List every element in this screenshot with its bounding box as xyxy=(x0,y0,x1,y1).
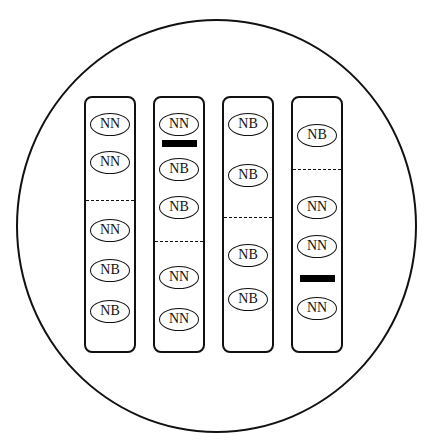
dashed-divider xyxy=(224,217,272,218)
marker-oval-nn: NN xyxy=(159,266,199,289)
marker-oval-nn: NN xyxy=(90,219,130,242)
marker-oval-nb: NB xyxy=(228,288,268,311)
marker-oval-nn: NN xyxy=(159,113,199,136)
dashed-divider xyxy=(155,241,203,242)
marker-oval-nn: NN xyxy=(90,113,130,136)
marker-oval-nb: NB xyxy=(228,244,268,267)
dashed-divider xyxy=(86,200,134,201)
black-bar-marker xyxy=(162,140,197,147)
lane-4: NBNNNNNN xyxy=(291,96,343,353)
marker-oval-nb: NB xyxy=(90,300,130,323)
marker-oval-nn: NN xyxy=(297,235,337,258)
marker-oval-nb: NB xyxy=(159,158,199,181)
marker-oval-nn: NN xyxy=(159,308,199,331)
marker-oval-nb: NB xyxy=(297,124,337,147)
marker-oval-nb: NB xyxy=(90,259,130,282)
marker-oval-nn: NN xyxy=(297,297,337,320)
marker-oval-nb: NB xyxy=(228,164,268,187)
lane-3: NBNBNBNB xyxy=(222,96,274,353)
marker-oval-nn: NN xyxy=(90,151,130,174)
marker-oval-nb: NB xyxy=(159,196,199,219)
lane-2: NNNBNBNNNN xyxy=(153,96,205,353)
dashed-divider xyxy=(293,169,341,170)
petri-dish-circle xyxy=(16,19,417,433)
marker-oval-nn: NN xyxy=(297,196,337,219)
lane-1: NNNNNNNBNB xyxy=(84,96,136,353)
marker-oval-nb: NB xyxy=(228,113,268,136)
black-bar-marker xyxy=(300,275,335,282)
